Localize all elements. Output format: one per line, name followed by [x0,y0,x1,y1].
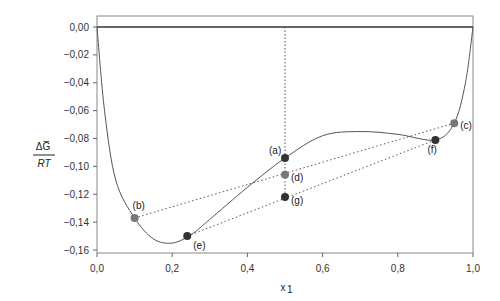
x-tick-label: 0,0 [90,263,104,274]
x-tick-label: 0,2 [165,263,179,274]
point-marker [281,171,289,179]
y-tick-label: −0,10 [64,161,90,172]
x-axis-subscript: 1 [287,284,293,295]
chart: 0,00−0,02−0,04−0,06−0,08−0,10−0,12−0,14−… [0,0,500,301]
point-label: (d) [291,172,303,183]
point-label: (b) [133,200,145,211]
y-tick-label: −0,04 [64,77,90,88]
y-tick-label: −0,14 [64,217,90,228]
point-label: (e) [193,240,205,251]
x-tick-label: 0,6 [316,263,330,274]
y-axis-label-numerator: ΔG̅ [36,141,51,152]
y-tick-label: 0,00 [70,22,90,33]
point-label: (g) [291,195,303,206]
x-tick-label: 1,0 [466,263,480,274]
point-label: (a) [269,145,281,156]
point-marker [131,214,139,222]
x-tick-label: 0,8 [391,263,405,274]
point-label: (f) [427,144,436,155]
x-axis-label: x [281,282,286,293]
point-marker [431,136,439,144]
y-tick-label: −0,02 [64,49,90,60]
y-tick-label: −0,08 [64,133,90,144]
point-marker [281,193,289,201]
x-tick-label: 0,4 [240,263,254,274]
y-axis-label-denominator: RT [37,158,51,169]
y-tick-label: −0,06 [64,105,90,116]
y-tick-label: −0,12 [64,189,90,200]
point-marker [281,154,289,162]
point-marker [450,119,458,127]
point-marker [183,232,191,240]
y-tick-label: −0,16 [64,245,90,256]
tie-line-ef [187,140,435,236]
point-label: (c) [460,120,472,131]
